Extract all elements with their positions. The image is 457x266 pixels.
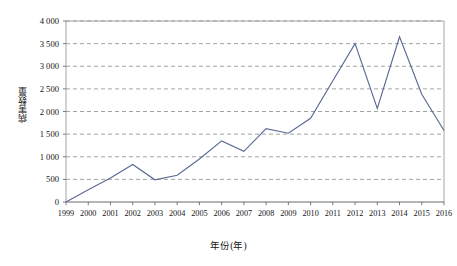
gridlines-group xyxy=(66,21,444,179)
x-axis-ticks: 1999200020012002200320042005200620072008… xyxy=(58,202,452,218)
y-axis-tick-label: 2 500 xyxy=(40,84,59,94)
chart-plot-area: 05001 0001 5002 0002 5003 0003 5004 000 … xyxy=(0,0,457,266)
x-axis-tick-label: 2003 xyxy=(147,209,163,218)
x-axis-tick-label: 2001 xyxy=(102,209,118,218)
x-axis-tick-label: 2013 xyxy=(369,209,385,218)
line-chart: 病害数量 05001 0001 5002 0002 5003 0003 5004… xyxy=(0,0,457,266)
y-axis-tick-label: 500 xyxy=(46,174,59,184)
x-axis-tick-label: 2002 xyxy=(125,209,141,218)
x-axis-tick-label: 2010 xyxy=(302,209,318,218)
x-axis-tick-label: 2008 xyxy=(258,209,274,218)
y-axis-tick-label: 1 000 xyxy=(40,152,59,162)
x-axis-tick-label: 1999 xyxy=(58,209,74,218)
y-axis-tick-label: 1 500 xyxy=(40,129,59,139)
data-series-group xyxy=(66,37,444,202)
x-axis-tick-label: 2007 xyxy=(236,209,252,218)
data-series-line xyxy=(66,37,444,202)
y-axis-tick-label: 3 500 xyxy=(40,39,59,49)
x-axis-tick-label: 2000 xyxy=(80,209,96,218)
x-axis-tick-label: 2006 xyxy=(213,209,229,218)
x-axis-tick-label: 2016 xyxy=(436,209,452,218)
x-axis-tick-label: 2005 xyxy=(191,209,207,218)
x-axis-tick-label: 2004 xyxy=(169,209,185,218)
y-axis-tick-label: 4 000 xyxy=(40,16,59,26)
x-axis-tick-label: 2012 xyxy=(347,209,363,218)
x-axis-title: 年份(年) xyxy=(0,238,457,252)
y-axis-tick-label: 3 000 xyxy=(40,61,59,71)
y-axis-tick-label: 0 xyxy=(55,197,59,207)
y-axis-tick-label: 2 000 xyxy=(40,107,59,117)
x-axis-tick-label: 2014 xyxy=(391,209,407,218)
x-axis-tick-label: 2011 xyxy=(325,209,341,218)
x-axis-tick-label: 2015 xyxy=(414,209,430,218)
x-axis-tick-label: 2009 xyxy=(280,209,296,218)
y-axis-ticks: 05001 0001 5002 0002 5003 0003 5004 000 xyxy=(40,16,66,207)
